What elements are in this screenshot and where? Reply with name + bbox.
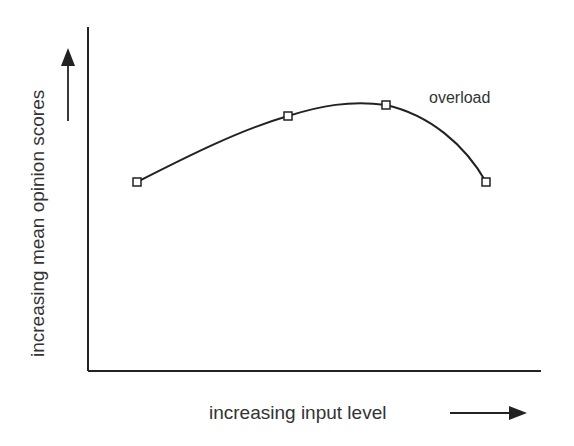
y-axis-label: increasing mean opinion scores bbox=[27, 90, 48, 357]
x-axis-label: increasing input level bbox=[209, 402, 386, 423]
data-point-marker bbox=[482, 178, 490, 186]
data-point-marker bbox=[284, 112, 292, 120]
chart: overload increasing mean opinion scores … bbox=[0, 0, 574, 446]
data-point-marker bbox=[382, 101, 390, 109]
up-arrow-head-icon bbox=[61, 48, 75, 66]
overload-annotation: overload bbox=[429, 89, 490, 106]
data-curve bbox=[137, 103, 486, 182]
data-point-marker bbox=[133, 178, 141, 186]
right-arrow-head-icon bbox=[509, 406, 527, 420]
